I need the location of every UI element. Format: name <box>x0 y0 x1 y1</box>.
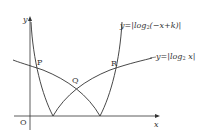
curve-label-log2-neg-x-plus-k: y=|log2(−x+k)| <box>120 22 181 30</box>
curve-label-log2-x: y=|log2 x| <box>156 53 195 61</box>
origin-label: O <box>20 119 27 127</box>
curve-label-prefix: y=|log <box>156 52 182 61</box>
y-axis-arrow-icon <box>28 16 32 21</box>
curve-label-prefix: y=|log <box>120 21 146 30</box>
axis-label-x: x <box>154 121 159 129</box>
point-label-r: R <box>111 60 117 68</box>
x-axis-arrow-icon <box>155 114 160 118</box>
curve-abs-log2-x <box>31 22 152 116</box>
curve-label-arg: x| <box>186 52 196 61</box>
point-label-p: P <box>37 59 42 67</box>
curve-label-arg: (−x+k)| <box>150 21 182 30</box>
curve-abs-log2-neg-x-plus-k <box>13 22 122 116</box>
point-label-q: Q <box>72 77 79 85</box>
axis-label-y: y <box>23 16 28 24</box>
